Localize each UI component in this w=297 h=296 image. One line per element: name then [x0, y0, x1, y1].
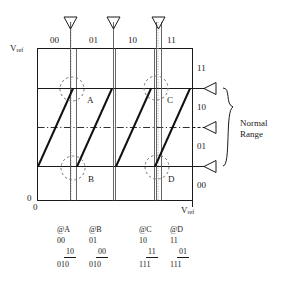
right-code-10: 10	[197, 103, 206, 112]
normal-range-line-2: Range	[240, 129, 263, 139]
normal-range-line-1: Normal	[240, 118, 268, 128]
code-result-d: 111	[170, 258, 189, 270]
code-column-a: @A 00 10 010	[57, 224, 76, 270]
code-result-b: 010	[89, 258, 108, 270]
code-stage2-d: 01	[177, 246, 189, 258]
code-header-b: @B	[89, 224, 108, 235]
code-header-d: @D	[170, 224, 189, 235]
code-stage2-b: 00	[96, 246, 108, 258]
point-label-d: D	[168, 174, 175, 184]
figure-canvas: Vref 0 0 Vref 00 01 10 11 11 10 01 00 A …	[0, 0, 297, 296]
x-axis-max-label: Vref	[181, 206, 194, 217]
code-result-a: 010	[57, 258, 76, 270]
top-code-11: 11	[167, 36, 176, 45]
point-label-a: A	[87, 95, 94, 105]
y-axis-min-label: 0	[27, 194, 32, 203]
code-stage2-a: 10	[64, 246, 76, 258]
code-stage1-c: 10	[139, 235, 158, 246]
right-code-11: 11	[197, 64, 206, 73]
circle-point-b	[61, 156, 85, 180]
code-header-c: @C	[139, 224, 158, 235]
code-stage1-b: 01	[89, 235, 108, 246]
right-code-01: 01	[197, 142, 206, 151]
top-code-01: 01	[89, 36, 98, 45]
top-code-00: 00	[50, 36, 59, 45]
x-axis-origin-label: 0	[33, 203, 38, 212]
top-code-10: 10	[128, 36, 137, 45]
normal-range-label: Normal Range	[240, 118, 268, 140]
code-header-a: @A	[57, 224, 76, 235]
code-column-c: @C 10 11 111	[139, 224, 158, 270]
point-label-b: B	[88, 174, 94, 184]
code-stage1-a: 00	[57, 235, 76, 246]
point-label-c: C	[167, 95, 173, 105]
code-stage2-c: 11	[146, 246, 158, 258]
code-stage1-d: 11	[170, 235, 189, 246]
normal-range-brace	[223, 88, 233, 166]
code-column-b: @B 01 00 010	[89, 224, 108, 270]
code-result-c: 111	[139, 258, 158, 270]
right-code-00: 00	[197, 181, 206, 190]
code-column-d: @D 11 01 111	[170, 224, 189, 270]
y-axis-max-label: Vref	[10, 44, 23, 55]
top-comparator-markers	[64, 17, 165, 29]
right-threshold-markers	[193, 83, 217, 173]
